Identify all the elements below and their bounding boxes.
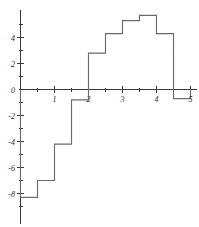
x-tick-label: 3 bbox=[120, 95, 125, 104]
step-function-chart: -8-6-4-202412345 bbox=[0, 0, 199, 227]
y-tick-label: 2 bbox=[11, 60, 15, 69]
chart-canvas: -8-6-4-202412345 bbox=[0, 0, 199, 227]
x-tick-label: 2 bbox=[87, 95, 91, 104]
step-series-group bbox=[21, 15, 191, 197]
x-tick-label: 4 bbox=[155, 95, 159, 104]
tick-marks-group bbox=[17, 25, 191, 207]
x-tick-label: 5 bbox=[189, 95, 193, 104]
y-tick-label: 0 bbox=[11, 86, 15, 95]
y-tick-label: -8 bbox=[8, 190, 15, 199]
y-tick-label: 4 bbox=[11, 34, 15, 43]
step-function-path bbox=[21, 15, 191, 197]
y-tick-label: -2 bbox=[8, 112, 15, 121]
tick-labels-group: -8-6-4-202412345 bbox=[8, 34, 192, 199]
y-tick-label: -4 bbox=[8, 138, 15, 147]
x-tick-label: 1 bbox=[53, 95, 57, 104]
axes-group bbox=[19, 10, 198, 224]
y-tick-label: -6 bbox=[8, 164, 15, 173]
